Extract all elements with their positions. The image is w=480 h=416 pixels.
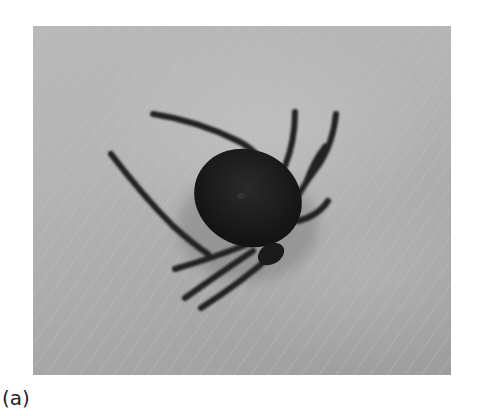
- figure-panel: (a): [0, 0, 480, 416]
- tick-photo: [33, 26, 451, 375]
- panel-label: (a): [2, 386, 30, 410]
- tick-illustration: [33, 26, 451, 375]
